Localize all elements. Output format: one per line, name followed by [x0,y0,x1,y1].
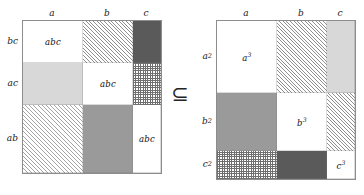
right-matrix-row-label-a: a2 [194,20,216,92]
table-cell: a3 [217,21,277,93]
table-cell [83,105,133,173]
table-cell [217,93,277,151]
cell-label: abc [139,134,155,144]
table-cell [327,21,355,93]
left-matrix-row-label-bc: bc [2,20,22,62]
left-matrix-column-header-b: b [82,7,132,19]
table-cell [327,93,355,151]
table-cell: abc [83,63,133,105]
left-matrix-row-label-ab: ab [2,104,22,172]
right-matrix-column-header-a: a [216,7,276,19]
cell-label: a3 [242,51,251,63]
set-containment-diagram: abc bcacab abcabcabc ⊆ abc a2b2c2 a3b3c3 [0,0,364,195]
right-matrix-row-label-b: b2 [194,92,216,150]
table-cell [277,21,327,93]
left-matrix-grid: abcabcabc [22,20,162,174]
table-cell: c3 [327,151,355,179]
table-cell [133,63,161,105]
table-cell [133,21,161,63]
table-cell: abc [23,21,83,63]
table-cell: b3 [277,93,327,151]
right-matrix-row-labels: a2b2c2 [194,20,216,178]
right-matrix: abc a2b2c2 a3b3c3 [192,0,364,195]
left-matrix-row-label-ac: ac [2,62,22,104]
cell-label: b3 [297,116,307,128]
left-matrix-column-headers: abc [22,7,160,19]
cell-label: c3 [336,159,345,171]
right-matrix-column-header-b: b [276,7,326,19]
left-matrix-column-header-a: a [22,7,82,19]
table-cell [23,105,83,173]
left-matrix-column-header-c: c [132,7,160,19]
table-cell [83,21,133,63]
right-matrix-column-header-c: c [326,7,354,19]
cell-label: abc [100,79,116,89]
cell-label: abc [45,37,61,47]
table-cell [217,151,277,179]
table-cell: abc [133,105,161,173]
right-matrix-column-headers: abc [216,7,354,19]
left-matrix: abc bcacab abcabcabc [0,0,170,190]
right-matrix-row-label-c: c2 [194,150,216,178]
subset-symbol: ⊆ [169,79,191,109]
left-matrix-row-labels: bcacab [2,20,22,172]
right-matrix-grid: a3b3c3 [216,20,356,180]
table-cell [277,151,327,179]
table-cell [23,63,83,105]
